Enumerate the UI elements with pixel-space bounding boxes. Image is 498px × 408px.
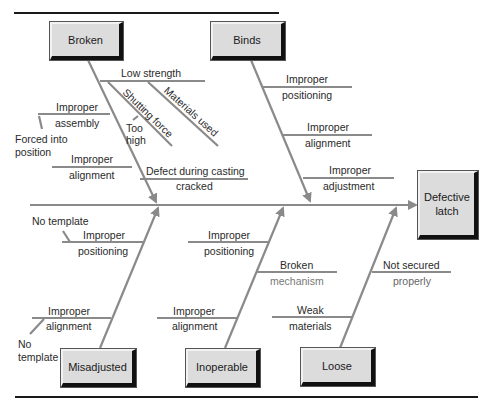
cause-label: Improper <box>286 73 328 85</box>
cause-label: position <box>15 146 51 158</box>
category-label: Loose <box>322 359 352 373</box>
category-label: Inoperable <box>196 360 248 374</box>
category-box-binds: Binds <box>211 22 285 60</box>
cause-label: positioning <box>282 89 332 101</box>
cause-label: alignment <box>305 137 351 149</box>
cause-label: materials <box>289 320 332 332</box>
category-label: Binds <box>233 33 261 47</box>
cause-label: adjustment <box>323 180 374 192</box>
cause-label: assembly <box>55 117 99 129</box>
cause-label: positioning <box>204 245 254 257</box>
cause-label: Improper <box>71 153 113 165</box>
cause-label: Not secured <box>383 259 440 271</box>
cause-label: Defect during casting <box>146 165 245 177</box>
category-label: Misadjusted <box>68 360 127 374</box>
cause-label: Broken <box>280 259 313 271</box>
cause-label: alignment <box>46 320 92 332</box>
cause-label: Weak <box>297 304 324 316</box>
cause-label: Improper <box>208 229 250 241</box>
cause-label: Improper <box>56 101 98 113</box>
cause-label: Improper <box>173 305 215 317</box>
cause-label: No template <box>32 215 89 227</box>
cause-label: Improper <box>329 164 371 176</box>
cause-label: Forced into <box>15 133 68 145</box>
category-box-inoperable: Inoperable <box>186 349 260 387</box>
bone-loose <box>340 208 396 348</box>
cause-label: Too high <box>126 122 152 146</box>
cause-label: Improper <box>307 121 349 133</box>
cause-label: Improper <box>83 229 125 241</box>
category-label: Broken <box>68 33 103 47</box>
cause-label: cracked <box>176 180 213 192</box>
effect-box: Defective latch <box>418 171 478 239</box>
cause-label: properly <box>393 275 431 287</box>
category-box-loose: Loose <box>301 348 375 386</box>
cause-label: positioning <box>78 245 128 257</box>
cause-label: No <box>18 338 31 350</box>
cause-label: Improper <box>48 305 90 317</box>
cause-label: alignment <box>172 320 218 332</box>
effect-label-line2: latch <box>435 204 458 218</box>
cause-label: template <box>18 351 58 363</box>
fishbone-diagram: Broken Binds Misadjusted Inoperable Loos… <box>0 0 498 408</box>
cause-label: Low strength <box>121 67 181 79</box>
category-box-broken: Broken <box>50 22 123 60</box>
cause-label: mechanism <box>270 275 324 287</box>
effect-label-line1: Defective <box>424 190 470 204</box>
cause-label: alignment <box>69 169 115 181</box>
category-box-misadjusted: Misadjusted <box>61 349 136 387</box>
